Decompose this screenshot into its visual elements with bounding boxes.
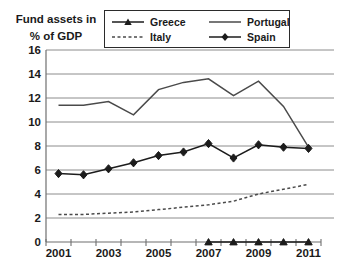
x-tick-label: 2001 <box>46 247 72 259</box>
legend-item-italy: Italy <box>111 31 208 43</box>
diamond-marker <box>280 143 287 151</box>
y-tick-label: 6 <box>35 164 41 176</box>
diamond-marker <box>55 170 62 178</box>
diamond-marker <box>105 165 112 173</box>
legend: GreecePortugalItalySpain <box>104 10 290 48</box>
diamond-marker <box>130 159 137 167</box>
x-tick-label: 2009 <box>246 247 272 259</box>
legend-label-greece: Greece <box>150 16 186 28</box>
y-tick-label: 4 <box>35 188 42 200</box>
x-tick-label: 2005 <box>146 247 172 259</box>
gridlines <box>46 50 334 218</box>
legend-label-portugal: Portugal <box>247 16 290 28</box>
series-portugal <box>59 79 309 147</box>
series-italy <box>59 184 309 214</box>
x-axis-labels: 200120032005200720092011 <box>46 247 322 259</box>
diamond-marker <box>255 141 262 149</box>
diamond-marker <box>180 148 187 156</box>
legend-item-greece: Greece <box>111 16 208 28</box>
legend-label-spain: Spain <box>247 31 276 43</box>
diamond-marker <box>155 152 162 160</box>
x-tick-label: 2011 <box>296 247 322 259</box>
x-tick-label: 2007 <box>196 247 222 259</box>
series-line-italy <box>59 184 309 214</box>
y-tick-label: 10 <box>28 116 41 128</box>
x-tick-label: 2003 <box>96 247 122 259</box>
y-tick-label: 12 <box>28 92 41 104</box>
diamond-marker <box>230 154 237 162</box>
legend-item-spain: Spain <box>208 31 279 43</box>
series-spain <box>55 140 312 179</box>
legend-sample-solid-diamond-line <box>208 31 242 43</box>
diamond-icon <box>222 32 229 40</box>
series-line-portugal <box>59 79 309 147</box>
diamond-marker <box>80 171 87 179</box>
legend-item-portugal: Portugal <box>208 16 279 28</box>
y-tick-label: 2 <box>35 212 41 224</box>
legend-label-italy: Italy <box>150 31 171 43</box>
legend-sample-dashed-line <box>111 31 145 43</box>
y-tick-label: 8 <box>35 140 42 152</box>
y-tick-label: 16 <box>28 44 41 56</box>
legend-sample-solid-line <box>208 16 242 28</box>
y-axis-labels: 0246810121416 <box>28 44 41 248</box>
chart: Fund assets in % of GDP GreecePortugalIt… <box>0 0 338 275</box>
y-tick-label: 0 <box>35 236 41 248</box>
y-tick-label: 14 <box>28 68 41 80</box>
legend-sample-solid-triangle-line <box>111 16 145 28</box>
